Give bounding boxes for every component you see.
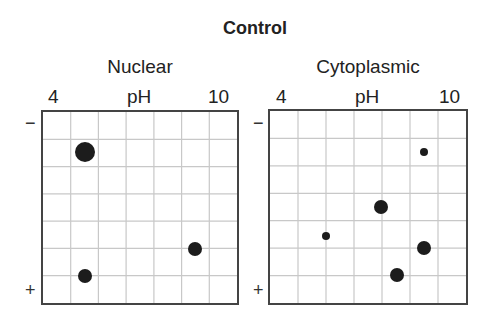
gel-grid-cytoplasmic [268,109,468,305]
gel-grid-nuclear [41,110,239,305]
grid-lines [43,112,237,303]
panel-title-nuclear: Nuclear [42,56,238,78]
protein-spot [188,242,202,256]
grid-lines [270,111,466,303]
figure-title: Control [0,18,495,39]
protein-spot [417,241,431,255]
pole-positive-cytoplasmic: + [253,280,264,301]
axis-label-cytoplasmic: pH [355,86,379,108]
protein-spot [390,268,404,282]
pole-positive-nuclear: + [25,280,36,301]
protein-spot [75,142,95,162]
axis-max-cytoplasmic: 10 [439,86,460,108]
pole-negative-cytoplasmic: − [253,113,264,134]
protein-spot [78,269,92,283]
axis-max-nuclear: 10 [208,86,229,108]
protein-spot [322,232,330,240]
pole-negative-nuclear: − [25,113,36,134]
panel-title-cytoplasmic: Cytoplasmic [269,56,467,78]
axis-label-nuclear: pH [127,86,151,108]
protein-spot [374,200,388,214]
protein-spot [420,148,428,156]
axis-min-nuclear: 4 [48,86,59,108]
axis-min-cytoplasmic: 4 [276,86,287,108]
